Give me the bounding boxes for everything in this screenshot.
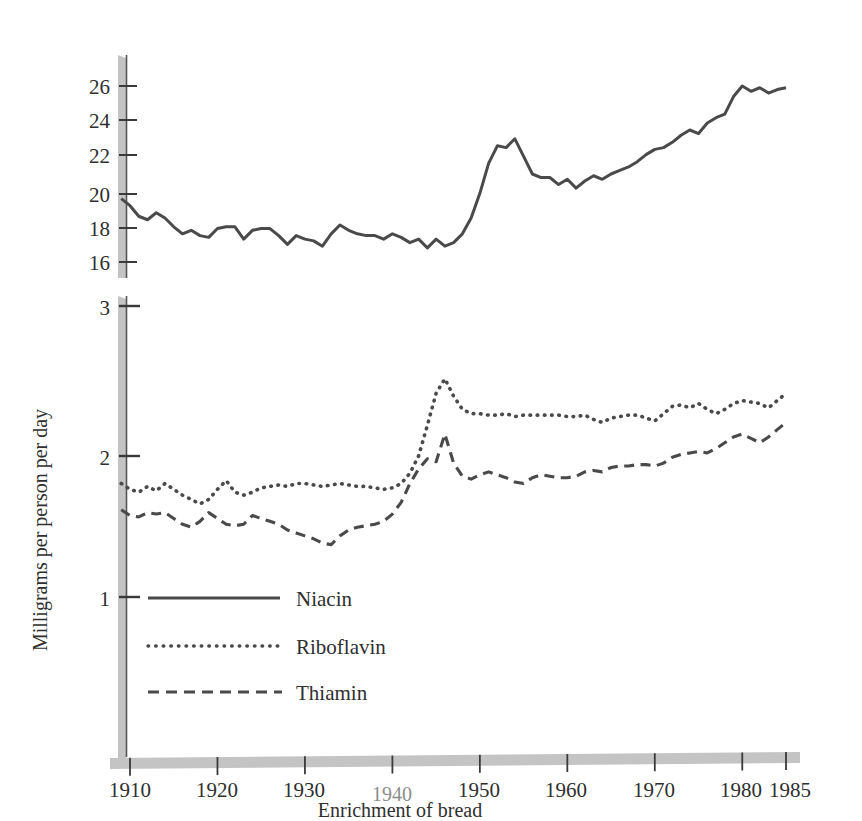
x-tick-label-1980: 1980 bbox=[720, 778, 762, 802]
legend-label-thiamin: Thiamin bbox=[296, 681, 368, 705]
y-tick-label-2: 2 bbox=[100, 446, 111, 470]
legend-label-riboflavin: Riboflavin bbox=[296, 635, 386, 659]
upper-y-axis-band bbox=[118, 55, 126, 278]
chart-svg: 26 24 22 20 18 16 3 2 1 1910 1920 1930 1… bbox=[0, 0, 862, 821]
x-tick-label-1970: 1970 bbox=[633, 778, 675, 802]
y-tick-label-20: 20 bbox=[89, 183, 110, 207]
y-tick-label-1: 1 bbox=[100, 587, 111, 611]
legend-label-niacin: Niacin bbox=[296, 587, 352, 611]
y-tick-label-26: 26 bbox=[89, 75, 110, 99]
chart-legend: Niacin Riboflavin Thiamin bbox=[148, 587, 386, 705]
y-tick-label-16: 16 bbox=[89, 251, 110, 275]
data-series-layer bbox=[121, 86, 786, 545]
x-axis-band bbox=[110, 752, 800, 769]
series-line-niacin bbox=[121, 86, 786, 248]
x-tick-label-1910: 1910 bbox=[109, 778, 151, 802]
series-line-riboflavin bbox=[121, 379, 786, 504]
y-tick-label-3: 3 bbox=[100, 296, 111, 320]
y-axis-title: Milligrams per person per day bbox=[29, 409, 52, 651]
lower-y-axis-band bbox=[118, 296, 126, 758]
lower-y-tick-labels: 3 2 1 bbox=[100, 296, 111, 611]
y-tick-label-18: 18 bbox=[89, 217, 110, 241]
y-tick-label-22: 22 bbox=[89, 144, 110, 168]
x-tick-label-1985: 1985 bbox=[769, 778, 811, 802]
x-tick-label-1960: 1960 bbox=[545, 778, 587, 802]
y-tick-label-24: 24 bbox=[89, 109, 111, 133]
axis-bands bbox=[110, 55, 800, 769]
x-tick-label-1920: 1920 bbox=[196, 778, 238, 802]
x-axis-title: Enrichment of bread bbox=[318, 799, 482, 821]
upper-y-tick-labels: 26 24 22 20 18 16 bbox=[89, 75, 111, 275]
nutrient-enrichment-chart: 26 24 22 20 18 16 3 2 1 1910 1920 1930 1… bbox=[0, 0, 862, 821]
